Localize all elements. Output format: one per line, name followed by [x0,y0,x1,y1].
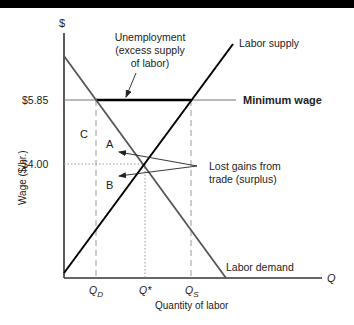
labor-market-diagram: $ Q Quantity of labor Wage ($/hr.) Minim… [0,0,354,325]
labor-demand-label: Labor demand [226,261,294,273]
minimum-wage-line: Minimum wage [64,94,322,106]
unemployment-line-1: Unemployment [115,31,186,43]
lost-gains-arrow-b [119,166,197,176]
tick-qstar: Q* [139,284,152,296]
x-axis-label: Quantity of labor [155,300,229,311]
y-axis-symbol: $ [59,17,65,29]
region-b-label: B [106,179,113,191]
tick-qd: QD [89,284,103,299]
minimum-wage-label: Minimum wage [243,94,322,106]
unemployment-line-2: (excess supply [115,44,185,56]
lost-gains-annotation: Lost gains from trade (surplus) [119,152,281,185]
unemployment-arrow [126,73,136,97]
lost-gains-line-2: trade (surplus) [209,173,277,185]
tick-4-00: $4.00 [22,158,48,170]
region-a-label: A [106,138,114,150]
x-axis-symbol: Q [327,272,336,284]
labor-supply-label: Labor supply [239,37,300,49]
unemployment-line-3: of labor) [131,57,170,69]
tick-5-85: $5.85 [22,94,48,106]
region-c-label: C [80,128,88,140]
lost-gains-line-1: Lost gains from [209,160,281,172]
tick-qs: QS [185,284,199,299]
labor-supply-curve: Labor supply [64,37,300,273]
unemployment-annotation: Unemployment (excess supply of labor) [115,31,186,97]
